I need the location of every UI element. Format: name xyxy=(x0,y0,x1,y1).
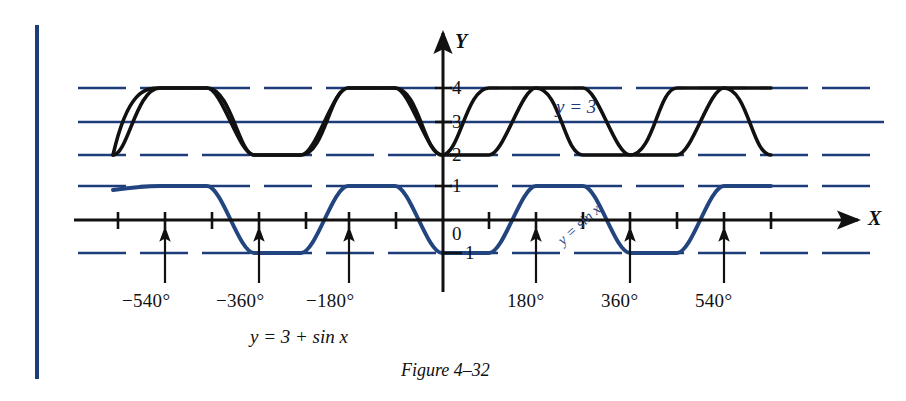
x-degree-label-neg180: −180° xyxy=(306,291,354,310)
y-tick-label-1: 1 xyxy=(452,176,462,195)
y-tick-label-2: 2 xyxy=(452,145,462,164)
label-y-equals-3: y = 3 xyxy=(556,97,596,116)
x-degree-label-360: 360° xyxy=(601,291,638,310)
x-degree-label-180: 180° xyxy=(507,291,544,310)
figure-caption: Figure 4–32 xyxy=(401,361,490,379)
label-y-equals-3-plus-sin-x: y = 3 + sin x xyxy=(250,327,348,346)
y-axis-label: Y xyxy=(455,31,467,51)
origin-label: 0 xyxy=(452,224,462,243)
y-tick-label-3: 3 xyxy=(452,112,462,131)
figure-container: Y X 4 3 2 1 0 1 −540° −360° −180° 180° 3… xyxy=(0,0,906,401)
grid-lines xyxy=(78,88,884,253)
x-degree-label-540: 540° xyxy=(695,291,732,310)
graph-canvas xyxy=(0,0,906,401)
x-degree-label-neg360: −360° xyxy=(216,291,264,310)
x-degree-label-neg540: −540° xyxy=(122,291,170,310)
y-tick-label-4: 4 xyxy=(452,78,462,97)
x-axis-label: X xyxy=(868,208,881,228)
y-tick-label-minus-1: 1 xyxy=(465,243,475,262)
